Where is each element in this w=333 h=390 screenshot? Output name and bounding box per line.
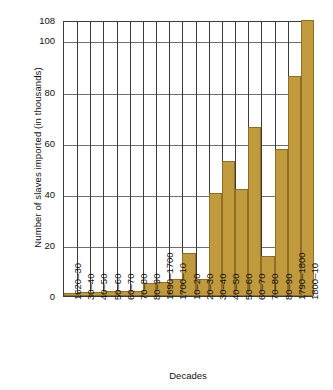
y-axis-tick-label: 100 <box>39 36 55 46</box>
y-axis-tick-label: 108 <box>39 16 55 26</box>
x-axis-tick-label: 80–90 <box>284 274 294 300</box>
x-axis-tick-label: 50–60 <box>244 274 254 300</box>
x-axis-tick-label: 50–60 <box>113 274 123 300</box>
x-axis-tick-label: 70–80 <box>270 274 280 300</box>
x-axis-tick-label: 1690–1700 <box>165 252 175 300</box>
x-axis-tick-label: 70–80 <box>139 274 149 300</box>
x-axis-tick-label: 1620–30 <box>73 263 83 300</box>
x-axis-tick-label: 80–90 <box>152 274 162 300</box>
x-axis-tick-label: 40–50 <box>231 274 241 300</box>
y-axis-tick-labels: 020406080100108 <box>0 0 60 390</box>
y-axis-tick-label: 0 <box>50 292 55 302</box>
x-axis-tick-label: 1800–10 <box>310 263 320 300</box>
x-axis-tick-label: 1700–10 <box>178 263 188 300</box>
y-axis-tick-label: 60 <box>44 139 55 149</box>
x-axis-tick-label: 60–70 <box>257 274 267 300</box>
x-axis-tick-label: 30–40 <box>218 274 228 300</box>
x-axis-tick-label: 30–40 <box>86 274 96 300</box>
bar-chart: Number of slaves imported (in thousands)… <box>0 0 333 390</box>
x-axis-title: Decades <box>63 370 313 381</box>
y-axis-tick-label: 20 <box>44 241 55 251</box>
x-axis-tick-labels: 1620–3030–4040–5050–6060–7070–8080–90169… <box>63 298 313 368</box>
x-axis-tick-label: 40–50 <box>99 274 109 300</box>
x-axis-tick-label: 1790–1800 <box>297 252 307 300</box>
bars-layer <box>64 22 312 296</box>
bar <box>248 127 261 296</box>
y-axis-tick-label: 40 <box>44 190 55 200</box>
x-axis-tick-label: 10–20 <box>192 274 202 300</box>
x-axis-tick-label: 60–70 <box>126 274 136 300</box>
y-axis-tick-label: 80 <box>44 88 55 98</box>
x-axis-tick-label: 20–30 <box>205 274 215 300</box>
plot-area <box>63 21 313 297</box>
